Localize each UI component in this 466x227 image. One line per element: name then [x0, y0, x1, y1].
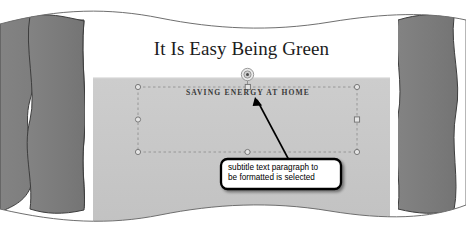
torn-edge-left [27, 15, 85, 213]
handle-middle-left[interactable] [135, 117, 140, 122]
handle-middle-right[interactable] [354, 117, 359, 122]
handle-bottom-center[interactable] [245, 149, 250, 154]
handle-bottom-right[interactable] [354, 149, 359, 154]
handle-bottom-left[interactable] [135, 149, 140, 154]
left-gutter [85, 14, 93, 214]
right-gutter [390, 14, 398, 214]
torn-edge-right [396, 15, 458, 214]
callout-line-2: be formatted is selected [228, 173, 336, 183]
paper-body [0, 0, 466, 227]
slide-artwork [0, 0, 466, 227]
callout-line-1: subtitle text paragraph to [228, 163, 336, 173]
callout-label: subtitle text paragraph to be formatted … [228, 163, 336, 183]
rotate-handle-dot [246, 73, 249, 76]
slide-excerpt-figure: It Is Easy Being Green SAVING ENERGY AT … [0, 0, 466, 227]
slide-title-text: It Is Easy Being Green [93, 38, 390, 60]
slide-subtitle-text: SAVING ENERGY AT HOME [138, 88, 358, 98]
